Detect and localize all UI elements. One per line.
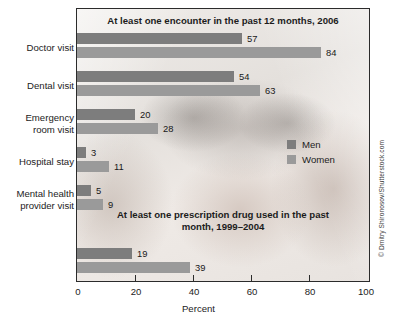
bar-rx-men xyxy=(77,248,132,259)
category-label-line1: Hospital stay xyxy=(19,156,74,167)
bar-mental-men xyxy=(77,185,91,196)
photo-credit: © Dmitry Shironosov/Shutterstock.com xyxy=(378,140,385,257)
value-dental-men: 54 xyxy=(239,71,249,82)
legend-swatch-women-icon xyxy=(287,155,296,164)
x-axis-label-40: 40 xyxy=(189,286,200,297)
x-axis-label-100: 100 xyxy=(358,286,374,297)
legend-label-women: Women xyxy=(302,154,335,165)
category-label-line2: provider visit xyxy=(20,200,74,211)
x-axis-label-20: 20 xyxy=(131,286,142,297)
chart-figure: At least one encounter in the past 12 mo… xyxy=(0,0,397,324)
x-axis-label-60: 60 xyxy=(247,286,258,297)
x-tick-60 xyxy=(251,275,252,281)
category-label-line2: room visit xyxy=(33,124,74,135)
x-tick-20 xyxy=(135,275,136,281)
x-axis-label-80: 80 xyxy=(305,286,316,297)
value-mental-men: 5 xyxy=(96,185,101,196)
bar-doctor-women xyxy=(77,47,321,58)
category-label-line1: Dental visit xyxy=(27,80,74,91)
legend-label-men: Men xyxy=(302,139,321,150)
chart-legend: Men Women xyxy=(287,137,335,167)
bar-hospital-women xyxy=(77,161,109,172)
value-hospital-men: 3 xyxy=(91,147,96,158)
category-label-line1: Doctor visit xyxy=(27,42,74,53)
category-label-hospital-stay: Hospital stay xyxy=(19,156,74,168)
panel-title-top: At least one encounter in the past 12 mo… xyxy=(77,15,369,27)
bar-hospital-men xyxy=(77,147,86,158)
category-label-line1: Emergency xyxy=(25,112,74,123)
value-rx-women: 39 xyxy=(195,262,205,273)
category-label-doctor-visit: Doctor visit xyxy=(27,42,74,54)
category-label-dental-visit: Dental visit xyxy=(27,80,74,92)
value-dental-women: 63 xyxy=(265,85,275,96)
bar-dental-men xyxy=(77,71,234,82)
category-label-line1: Mental health xyxy=(16,188,74,199)
value-hospital-women: 11 xyxy=(114,161,124,172)
legend-swatch-men-icon xyxy=(287,140,296,149)
legend-item-women: Women xyxy=(287,152,335,167)
x-axis-title: Percent xyxy=(0,303,397,314)
value-er-men: 20 xyxy=(140,109,150,120)
x-axis-label-0: 0 xyxy=(75,286,80,297)
value-er-women: 28 xyxy=(163,123,173,134)
value-doctor-women: 84 xyxy=(326,47,336,58)
legend-item-men: Men xyxy=(287,137,335,152)
panel-title-bottom-line1: At least one prescription drug used in t… xyxy=(117,209,329,220)
x-tick-40 xyxy=(193,275,194,281)
value-rx-men: 19 xyxy=(137,248,147,259)
bar-er-men xyxy=(77,109,135,120)
x-tick-80 xyxy=(309,275,310,281)
category-label-emergency-room-visit: Emergency room visit xyxy=(25,112,74,135)
bar-doctor-men xyxy=(77,33,242,44)
panel-title-bottom: At least one prescription drug used in t… xyxy=(91,209,355,232)
value-doctor-men: 57 xyxy=(247,33,257,44)
category-label-mental-health-provider-visit: Mental health provider visit xyxy=(16,188,74,211)
bar-er-women xyxy=(77,123,158,134)
panel-title-bottom-line2: month, 1999–2004 xyxy=(182,221,265,232)
plot-area: At least one encounter in the past 12 mo… xyxy=(76,8,370,282)
bar-dental-women xyxy=(77,85,260,96)
bar-rx-women xyxy=(77,262,190,273)
